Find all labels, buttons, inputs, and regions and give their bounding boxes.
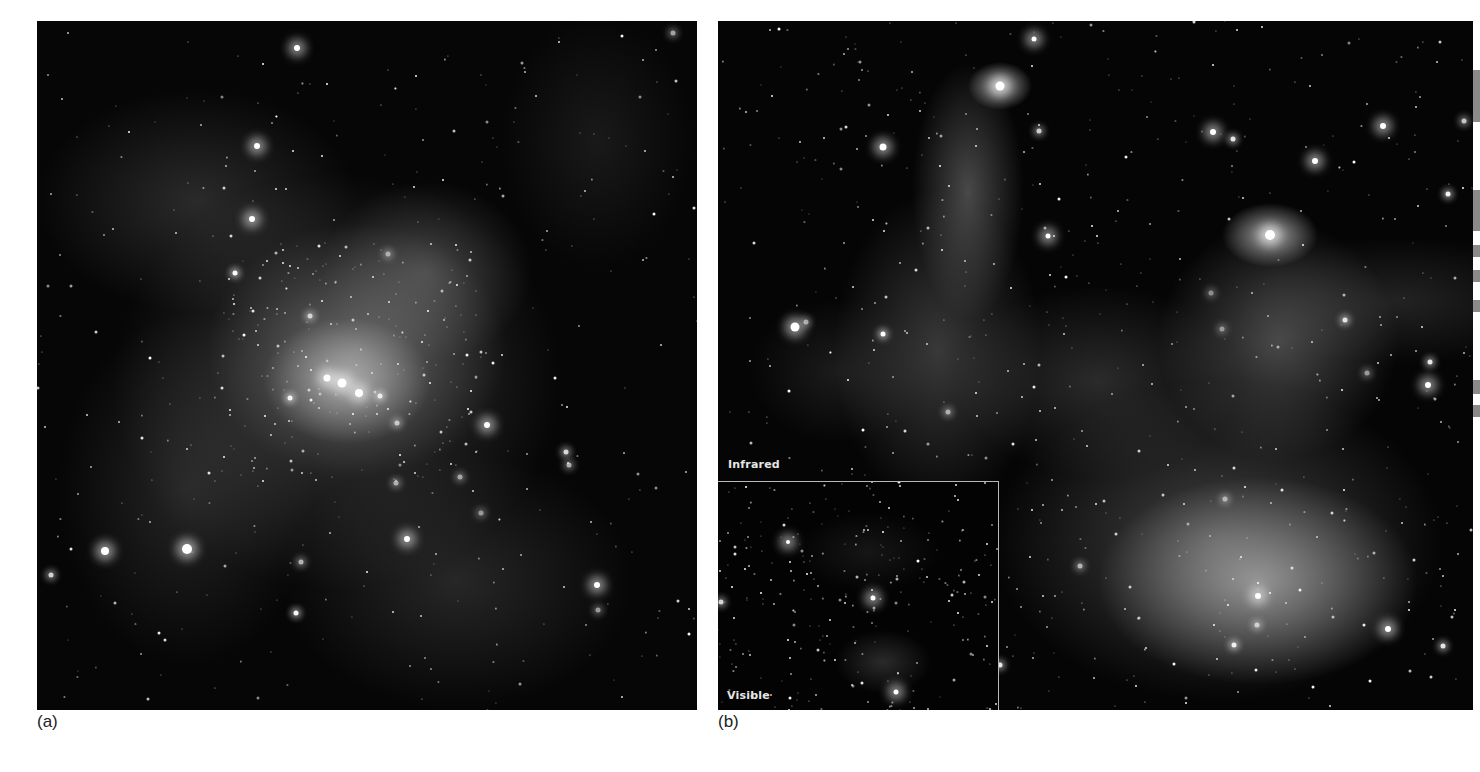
star bbox=[733, 545, 736, 548]
star bbox=[906, 332, 908, 334]
star bbox=[926, 343, 928, 345]
star bbox=[220, 96, 223, 99]
star bbox=[892, 376, 894, 378]
star bbox=[501, 354, 503, 356]
star bbox=[486, 121, 489, 124]
panel-b-image: Infrared Visible bbox=[718, 21, 1473, 710]
star bbox=[1010, 287, 1012, 289]
star bbox=[1353, 160, 1356, 163]
star bbox=[875, 642, 876, 643]
star bbox=[1251, 292, 1253, 294]
star bbox=[903, 429, 906, 432]
star bbox=[232, 298, 234, 300]
star bbox=[47, 74, 49, 76]
star bbox=[1054, 407, 1056, 409]
star bbox=[140, 436, 143, 439]
star bbox=[903, 527, 904, 528]
bright-star bbox=[182, 544, 192, 554]
star bbox=[1343, 293, 1346, 296]
star bbox=[147, 697, 150, 700]
star bbox=[881, 554, 882, 555]
star bbox=[468, 259, 471, 262]
star bbox=[810, 572, 812, 574]
star bbox=[954, 495, 956, 497]
star bbox=[502, 568, 504, 570]
star bbox=[899, 262, 901, 264]
star bbox=[1341, 389, 1343, 391]
star bbox=[450, 463, 452, 465]
star bbox=[399, 454, 401, 456]
star bbox=[47, 284, 50, 287]
star bbox=[809, 560, 810, 561]
star bbox=[1267, 315, 1269, 317]
bright-star bbox=[1046, 234, 1051, 239]
bright-star bbox=[249, 216, 255, 222]
star bbox=[1209, 535, 1211, 537]
star bbox=[749, 654, 751, 656]
star bbox=[620, 34, 623, 37]
star bbox=[985, 554, 986, 555]
star bbox=[1027, 113, 1029, 115]
star bbox=[1032, 657, 1034, 659]
star bbox=[816, 649, 819, 652]
star bbox=[1213, 624, 1215, 626]
star bbox=[1220, 327, 1225, 332]
star bbox=[546, 230, 548, 232]
star bbox=[1023, 151, 1025, 153]
star bbox=[856, 535, 857, 536]
star bbox=[1440, 421, 1442, 423]
star bbox=[254, 457, 256, 459]
star bbox=[301, 350, 303, 352]
star bbox=[1343, 317, 1348, 322]
star bbox=[963, 616, 964, 617]
star bbox=[1035, 439, 1037, 441]
star bbox=[810, 625, 811, 626]
star bbox=[861, 69, 863, 71]
star bbox=[947, 584, 948, 585]
star bbox=[881, 517, 882, 518]
bright-star bbox=[1032, 37, 1037, 42]
star bbox=[270, 434, 272, 436]
star bbox=[819, 639, 820, 640]
star bbox=[1230, 137, 1235, 142]
star bbox=[1135, 685, 1137, 687]
star bbox=[804, 561, 805, 562]
star bbox=[233, 270, 238, 275]
star bbox=[326, 83, 328, 85]
visible-light-inset: Visible bbox=[718, 481, 999, 710]
star bbox=[928, 532, 929, 533]
star bbox=[731, 663, 732, 664]
star bbox=[976, 415, 978, 417]
star bbox=[418, 526, 420, 528]
star bbox=[962, 639, 964, 641]
star bbox=[748, 507, 750, 509]
star bbox=[787, 517, 788, 518]
star bbox=[112, 228, 114, 230]
star bbox=[584, 190, 586, 192]
star bbox=[456, 284, 458, 286]
star bbox=[430, 243, 432, 245]
star bbox=[826, 498, 827, 499]
star bbox=[386, 251, 391, 256]
star bbox=[818, 625, 819, 626]
star bbox=[996, 548, 998, 550]
star bbox=[1300, 210, 1302, 212]
star bbox=[355, 328, 357, 330]
star bbox=[800, 648, 801, 649]
star bbox=[721, 702, 722, 703]
star bbox=[829, 643, 830, 644]
star bbox=[242, 334, 245, 337]
star bbox=[862, 429, 865, 432]
bright-star bbox=[404, 536, 410, 542]
star bbox=[367, 313, 369, 315]
star bbox=[719, 600, 724, 605]
star bbox=[801, 550, 804, 553]
star bbox=[930, 621, 931, 622]
star bbox=[1058, 198, 1061, 201]
star bbox=[862, 653, 863, 654]
star bbox=[781, 536, 782, 537]
star bbox=[1409, 670, 1412, 673]
star bbox=[1436, 61, 1438, 63]
star bbox=[590, 521, 592, 523]
star bbox=[733, 639, 734, 640]
